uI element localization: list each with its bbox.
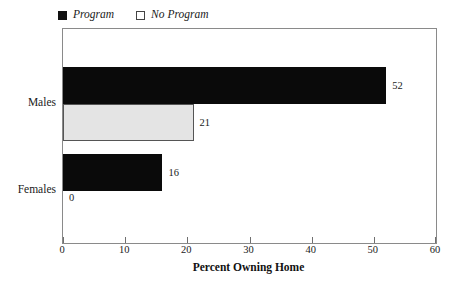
legend-label-no-program: No Program (151, 9, 208, 21)
y-axis-label-females: Females (0, 184, 56, 196)
bar-value-males-no-program: 21 (200, 118, 211, 129)
plot-area: 52 21 16 0 (63, 29, 436, 243)
x-axis-tick-label: 10 (119, 245, 130, 256)
chart-legend: Program No Program (58, 7, 209, 23)
x-axis-tick-label: 40 (305, 245, 316, 256)
x-axis-tick-mark (435, 237, 436, 243)
x-axis-title: Percent Owning Home (62, 262, 435, 274)
open-square-icon (136, 11, 145, 20)
x-axis-tick-label: 0 (59, 245, 64, 256)
legend-item-no-program: No Program (136, 9, 208, 21)
x-axis-tick-label: 20 (181, 245, 192, 256)
bar-females-program (63, 154, 162, 191)
plot-frame: 52 21 16 0 (62, 28, 437, 244)
x-axis-tick-mark (312, 237, 313, 243)
x-axis-tick-mark (374, 237, 375, 243)
bar-males-no-program (63, 104, 194, 141)
x-axis-tick-mark (63, 237, 64, 243)
bar-value-females-no-program: 0 (69, 193, 74, 204)
bar-chart: Program No Program Males Females 52 21 1… (0, 0, 453, 283)
x-axis-tick-mark (250, 237, 251, 243)
x-axis-tick-label: 60 (430, 245, 441, 256)
bar-value-females-program: 16 (168, 168, 179, 179)
y-axis-label-males: Males (0, 97, 56, 109)
x-axis-tick-label: 50 (368, 245, 379, 256)
x-axis-tick-label: 30 (243, 245, 254, 256)
legend-label-program: Program (73, 9, 114, 21)
filled-square-icon (58, 11, 67, 20)
legend-item-program: Program (58, 9, 114, 21)
x-axis-tick-mark (125, 237, 126, 243)
bar-males-program (63, 67, 386, 104)
x-axis-tick-mark (187, 237, 188, 243)
bar-value-males-program: 52 (392, 81, 403, 92)
y-axis-category-labels: Males Females (0, 28, 56, 242)
